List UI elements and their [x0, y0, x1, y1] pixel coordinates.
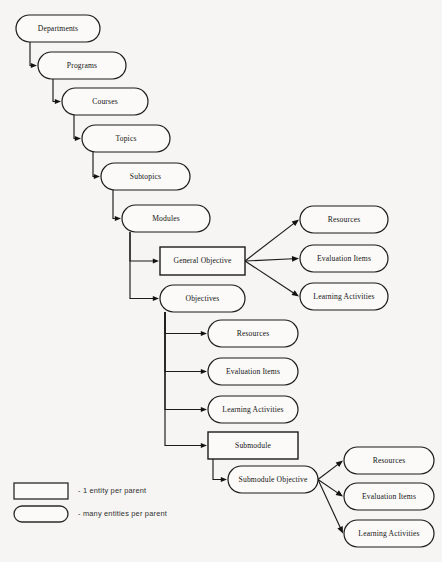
node-label: Submodule Objective [239, 475, 308, 484]
legend-label: - many entities per parent [78, 509, 167, 518]
diagram-canvas: DepartmentsProgramsCoursesTopicsSubtopic… [0, 0, 442, 562]
connector-objectives-to-evaluation [165, 312, 207, 374]
node-label: Learning Activities [358, 529, 419, 538]
arrow-head [292, 256, 299, 262]
connector-courses-to-topics [74, 115, 81, 141]
node-programs[interactable]: Programs [38, 52, 126, 79]
arrow-head [201, 407, 207, 412]
arrow-head [55, 99, 61, 104]
arrow-head [221, 477, 227, 482]
arrow-head [292, 220, 299, 227]
node-label: Evaluation Items [226, 367, 280, 376]
node-submodule[interactable]: Submodule [208, 432, 298, 459]
connector-modules-to-objectives [130, 232, 159, 301]
node-modules[interactable]: Modules [122, 205, 210, 232]
node-courses[interactable]: Courses [62, 88, 148, 115]
node-label: Learning Activities [313, 292, 374, 301]
node-sub-resources[interactable]: Resources [344, 447, 434, 474]
arrow-head [336, 490, 343, 496]
connector-line [165, 312, 201, 446]
connector-line [53, 79, 55, 102]
arrow-head [94, 174, 100, 179]
connector-line [130, 232, 153, 299]
connector-line [165, 312, 201, 334]
connector-objectives-to-learning [165, 312, 207, 412]
node-label: Modules [152, 214, 180, 223]
arrow-head [153, 258, 159, 263]
node-submodule-objective[interactable]: Submodule Objective [228, 466, 318, 493]
node-go-evaluation[interactable]: Evaluation Items [300, 245, 388, 272]
node-label: Resources [373, 456, 406, 465]
node-label: Submodule [235, 441, 271, 450]
connector-objectives-to-submodule [165, 312, 207, 448]
connector-line [213, 459, 221, 480]
node-general-objective[interactable]: General Objective [160, 247, 245, 275]
connector-departments-to-programs [30, 42, 37, 68]
connector-modules-to-general [130, 232, 159, 264]
node-obj-resources[interactable]: Resources [208, 320, 298, 347]
arrow-head [201, 443, 207, 448]
arrow-head [115, 216, 121, 221]
arrow-head [292, 290, 299, 296]
connector-objectives-to-resources [165, 312, 207, 336]
entity-hierarchy-diagram: DepartmentsProgramsCoursesTopicsSubtopic… [0, 0, 442, 562]
node-label: Subtopics [130, 172, 161, 181]
arrow-head [153, 296, 159, 301]
arrow-head [201, 369, 207, 374]
node-label: Resources [237, 329, 270, 338]
connector-submodule-to-subobjective [213, 459, 227, 482]
legend-item-legend-one-per-parent: - 1 entity per parent [14, 483, 146, 499]
node-go-resources[interactable]: Resources [300, 206, 388, 233]
node-go-learning[interactable]: Learning Activities [300, 283, 388, 310]
connector-line [165, 312, 201, 372]
legend-layer: - 1 entity per parent- many entities per… [14, 483, 167, 522]
connector-line [30, 42, 31, 66]
node-label: Objectives [186, 294, 220, 303]
node-label: Courses [92, 97, 118, 106]
arrow-head [75, 136, 81, 141]
connector-line [245, 223, 294, 261]
legend-item-legend-many-per-parent: - many entities per parent [14, 506, 167, 522]
node-label: Departments [38, 24, 78, 33]
connector-line [318, 464, 338, 479]
connector-subobjective-to-resources [318, 461, 343, 480]
node-label: General Objective [174, 256, 232, 265]
node-topics[interactable]: Topics [82, 125, 170, 152]
node-label: Resources [328, 215, 361, 224]
node-label: Topics [115, 134, 136, 143]
node-subtopics[interactable]: Subtopics [101, 163, 190, 190]
connector-programs-to-courses [53, 79, 61, 104]
connector-line [74, 115, 75, 139]
node-label: Programs [67, 61, 97, 70]
legend-swatch-rounded [14, 506, 68, 522]
connector-line [130, 232, 153, 261]
connector-general-to-resources [245, 220, 299, 262]
connector-general-to-evaluation [245, 256, 299, 262]
legend-swatch-rectangle [14, 483, 68, 499]
node-sub-learning[interactable]: Learning Activities [344, 520, 434, 547]
connector-line [113, 190, 115, 219]
node-label: Learning Activities [222, 405, 283, 414]
node-label: Evaluation Items [362, 492, 416, 501]
connector-general-to-learning [245, 261, 299, 297]
connector-line [93, 152, 94, 177]
node-objectives[interactable]: Objectives [160, 285, 245, 312]
connector-line [165, 312, 201, 410]
node-sub-evaluation[interactable]: Evaluation Items [344, 483, 434, 510]
node-obj-learning[interactable]: Learning Activities [208, 396, 298, 423]
connector-topics-to-subtopics [93, 152, 100, 179]
arrow-head [31, 63, 37, 68]
connector-subtopics-to-modules [113, 190, 121, 221]
node-label: Evaluation Items [317, 254, 371, 263]
node-obj-evaluation[interactable]: Evaluation Items [208, 358, 298, 385]
node-layer: DepartmentsProgramsCoursesTopicsSubtopic… [16, 15, 434, 547]
connector-line [245, 261, 294, 293]
arrow-head [336, 461, 343, 468]
arrow-head [201, 331, 207, 336]
connector-line [245, 259, 293, 261]
node-departments[interactable]: Departments [16, 15, 100, 42]
legend-label: - 1 entity per parent [78, 486, 146, 495]
